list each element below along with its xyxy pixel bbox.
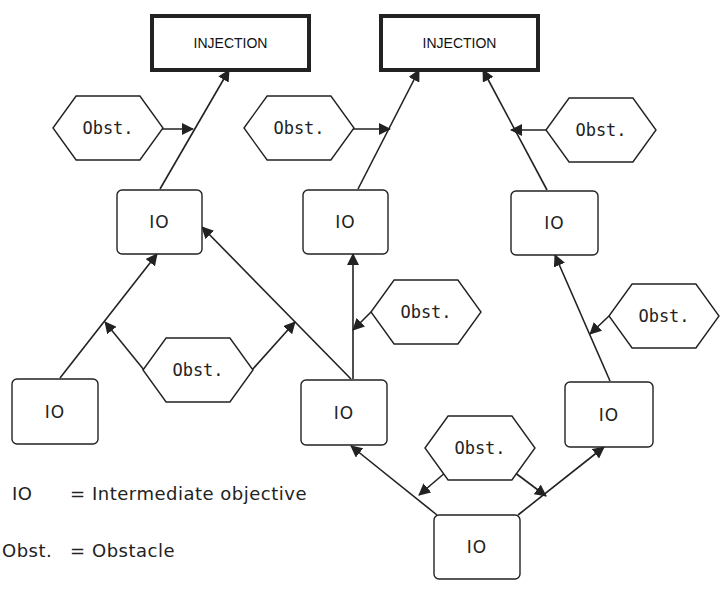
io-node: IO xyxy=(565,382,653,447)
edge-arrow xyxy=(105,322,144,370)
io-node: IO xyxy=(12,379,98,444)
legend-key-io: IO xyxy=(12,483,32,504)
edge-arrow xyxy=(514,472,546,496)
obstacle-label: Obst. xyxy=(273,118,324,138)
io-label: IO xyxy=(467,537,487,557)
obstacle-node: Obst. xyxy=(425,416,535,480)
obstacle-node: Obst. xyxy=(244,96,354,160)
io-label: IO xyxy=(334,403,354,423)
edge-arrow xyxy=(60,254,157,378)
legend-key-obst: Obst. xyxy=(2,540,52,561)
obstacle-label: Obst. xyxy=(82,118,133,138)
legend-separator-io: = xyxy=(70,483,86,504)
edge-arrow xyxy=(590,316,609,334)
io-node: IO xyxy=(434,515,520,579)
edge-arrow xyxy=(518,447,604,515)
obstacle-node: Obst. xyxy=(53,96,163,160)
obstacle-node: Obst. xyxy=(371,280,481,344)
io-label: IO xyxy=(599,405,619,425)
obstacle-node: Obst. xyxy=(546,98,656,162)
io-node: IO xyxy=(117,190,202,254)
io-label: IO xyxy=(544,213,564,233)
obstacle-label: Obst. xyxy=(575,120,626,140)
legend-meaning-io: Intermediate objective xyxy=(92,483,307,504)
obstacle-label: Obst. xyxy=(454,438,505,458)
io-node: IO xyxy=(301,380,387,445)
io-node: IO xyxy=(303,190,388,254)
legend-separator-obst: = xyxy=(70,540,86,561)
legend: IO = Intermediate objective Obst. = Obst… xyxy=(2,483,307,561)
obstacle-node: Obst. xyxy=(609,284,719,348)
io-label: IO xyxy=(149,212,169,232)
injection-node: INJECTION xyxy=(381,16,538,70)
edge-arrow xyxy=(252,322,295,370)
prerequisite-tree-diagram: INJECTIONINJECTIONIOIOIOIOIOIOIOObst.Obs… xyxy=(0,0,728,590)
edge-arrow xyxy=(351,446,437,515)
obstacle-label: Obst. xyxy=(172,360,223,380)
obstacle-label: Obst. xyxy=(638,306,689,326)
edge-arrow xyxy=(419,472,446,495)
injection-label: INJECTION xyxy=(194,35,268,51)
injection-label: INJECTION xyxy=(423,35,497,51)
edge-arrow xyxy=(555,255,610,381)
obstacle-node: Obst. xyxy=(143,338,253,402)
obstacle-label: Obst. xyxy=(400,302,451,322)
edge-arrow xyxy=(353,312,371,330)
io-label: IO xyxy=(335,212,355,232)
io-label: IO xyxy=(45,402,65,422)
legend-meaning-obst: Obstacle xyxy=(92,540,175,561)
injection-node: INJECTION xyxy=(152,16,309,70)
io-node: IO xyxy=(511,191,598,255)
